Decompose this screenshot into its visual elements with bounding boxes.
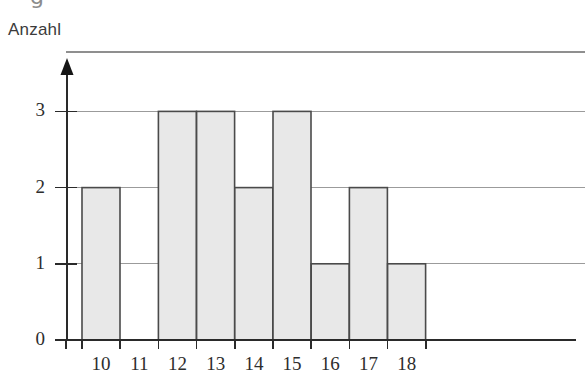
- y-tick-label-3: 3: [19, 99, 45, 121]
- y-tick-label-1: 1: [19, 252, 45, 274]
- bar-12: [158, 111, 196, 340]
- bar-10: [82, 188, 120, 340]
- bar-chart-plot: [0, 0, 585, 373]
- y-tick-label-0: 0: [19, 328, 45, 350]
- x-tick-label-18: 18: [385, 353, 429, 373]
- bar-14: [235, 188, 273, 340]
- y-tick-label-2: 2: [19, 176, 45, 198]
- x-ticks-group: [66, 340, 426, 349]
- gridlines-group: [66, 52, 585, 264]
- y-axis-arrow-icon: [61, 58, 74, 75]
- bar-17: [349, 188, 387, 340]
- bar-18: [388, 264, 426, 340]
- bars-group: [82, 111, 426, 340]
- bar-13: [197, 111, 235, 340]
- chart-figure: g Anzahl 0123 101112131415161718: [0, 0, 585, 373]
- bar-16: [311, 264, 349, 340]
- bar-15: [273, 111, 311, 340]
